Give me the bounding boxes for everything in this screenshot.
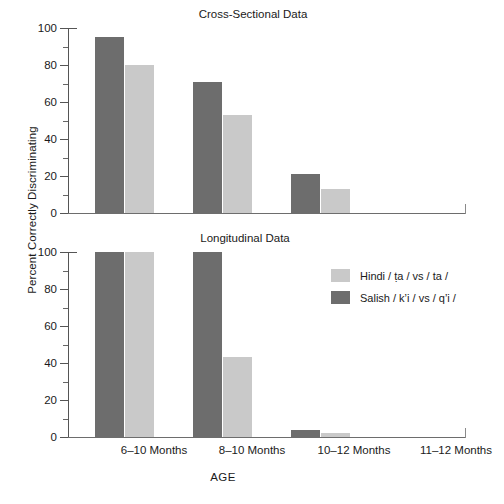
x-axis-line [68, 213, 466, 214]
bar [193, 82, 222, 213]
y-axis-tick-major [60, 437, 68, 438]
x-axis-title: AGE [68, 471, 378, 483]
y-axis-tick-minor [63, 308, 68, 309]
y-axis-line [68, 252, 69, 438]
x-axis-end-cap [465, 204, 466, 214]
bar [125, 65, 154, 213]
y-axis-tick-minor [63, 121, 68, 122]
y-axis-tick-label: 100 [38, 246, 57, 258]
legend-language-hindi: Hindi [360, 270, 385, 282]
y-axis-tick-label: 0 [51, 431, 57, 443]
y-axis-tick-label: 100 [38, 22, 57, 34]
y-axis-tick-minor [63, 382, 68, 383]
y-axis-label-text: Percent Correctly Discriminating [26, 126, 38, 293]
x-axis-line [68, 437, 466, 438]
y-axis-tick-label: 60 [44, 320, 57, 332]
y-axis-tick-label: 40 [44, 133, 57, 145]
panel-title-longitudinal: Longitudinal Data [80, 232, 410, 244]
y-axis-top-cap [68, 252, 77, 253]
x-axis-tick-label: 11–12 Months [420, 444, 492, 456]
y-axis-tick-major [60, 28, 68, 29]
y-axis-top-cap [68, 28, 77, 29]
bar [291, 174, 320, 213]
y-axis-tick-label: 40 [44, 357, 57, 369]
y-axis-tick-major [60, 139, 68, 140]
y-axis-tick-label: 60 [44, 96, 57, 108]
y-axis-tick-major [60, 326, 68, 327]
x-axis-end-cap [465, 428, 466, 438]
y-axis-tick-minor [63, 271, 68, 272]
bar [95, 252, 124, 437]
y-axis-tick-label: 80 [44, 283, 57, 295]
y-axis-tick-major [60, 289, 68, 290]
y-axis-tick-minor [63, 47, 68, 48]
y-axis-tick-label: 80 [44, 59, 57, 71]
chart-panel-cross-sectional: Cross-Sectional Data 020406080100 [68, 28, 466, 214]
plot-area-cross-sectional: 020406080100 [68, 28, 466, 214]
y-axis-tick-label: 0 [51, 207, 57, 219]
y-axis-tick-major [60, 363, 68, 364]
bar [125, 252, 154, 437]
y-axis-tick-minor [63, 195, 68, 196]
legend-item-salish: Salish/ kʼi / vs / qʼi / [331, 287, 501, 308]
y-axis-tick-major [60, 176, 68, 177]
x-axis-tick-label: 8–10 Months [219, 444, 286, 456]
bar [223, 357, 252, 437]
y-axis-tick-major [60, 102, 68, 103]
y-axis-tick-minor [63, 158, 68, 159]
bar [321, 189, 350, 213]
panel-title-cross-sectional: Cross-Sectional Data [88, 8, 418, 20]
legend-contrast-hindi: / ṭa / vs / ta / [388, 270, 448, 282]
y-axis-tick-label: 20 [44, 394, 57, 406]
y-axis-tick-major [60, 213, 68, 214]
y-axis-tick-major [60, 252, 68, 253]
y-axis-tick-label: 20 [44, 170, 57, 182]
y-axis-line [68, 28, 69, 214]
y-axis-label: Percent Correctly Discriminating [22, 0, 42, 420]
bar [95, 37, 124, 213]
bar [321, 433, 350, 437]
legend-item-hindi: Hindi/ ṭa / vs / ta / [331, 265, 501, 286]
chart-legend: Hindi/ ṭa / vs / ta / Salish/ kʼi / vs /… [331, 265, 501, 309]
y-axis-tick-major [60, 65, 68, 66]
x-axis-tick-label: 6–10 Months [121, 444, 188, 456]
x-axis-tick-labels: 6–10 Months8–10 Months10–12 Months11–12 … [62, 444, 502, 460]
y-axis-tick-minor [63, 345, 68, 346]
legend-swatch-hindi-icon [331, 269, 350, 282]
legend-swatch-salish-icon [331, 291, 350, 304]
y-axis-tick-minor [63, 419, 68, 420]
legend-language-salish: Salish [360, 292, 390, 304]
legend-label-hindi: Hindi/ ṭa / vs / ta / [360, 270, 448, 282]
y-axis-tick-major [60, 400, 68, 401]
x-axis-tick-label: 10–12 Months [318, 444, 391, 456]
legend-contrast-salish: / kʼi / vs / qʼi / [393, 292, 456, 304]
bar [223, 115, 252, 213]
chart-figure: Percent Correctly Discriminating Cross-S… [0, 0, 504, 504]
bar [291, 430, 320, 437]
bar [193, 252, 222, 437]
legend-label-salish: Salish/ kʼi / vs / qʼi / [360, 292, 456, 304]
y-axis-tick-minor [63, 84, 68, 85]
